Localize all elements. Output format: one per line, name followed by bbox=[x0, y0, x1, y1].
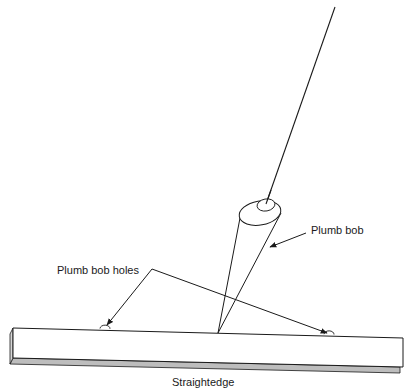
holes-leader-right-arrow bbox=[152, 269, 327, 333]
plumb-bob-leader-arrow bbox=[270, 233, 306, 247]
straightedge-label: Straightedge bbox=[172, 377, 234, 388]
holes-leader-left-arrow bbox=[107, 269, 152, 325]
plumb-bob-holes-label: Plumb bob holes bbox=[57, 265, 139, 276]
plumb-bob-label: Plumb bob bbox=[311, 225, 364, 236]
plumb-bob-hole-left bbox=[100, 325, 110, 329]
plumb-bob-string bbox=[266, 7, 335, 204]
plumb-bob-left-edge bbox=[218, 218, 240, 333]
plumb-bob-right-edge bbox=[218, 213, 281, 333]
plumb-bob bbox=[218, 190, 283, 333]
straightedge bbox=[10, 328, 403, 373]
